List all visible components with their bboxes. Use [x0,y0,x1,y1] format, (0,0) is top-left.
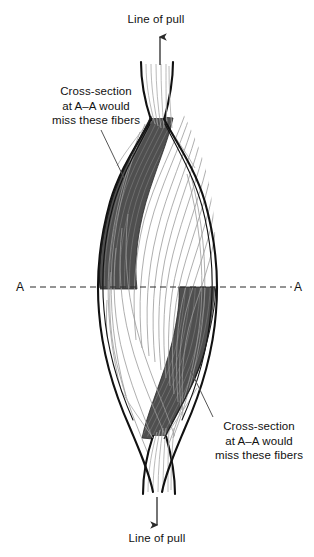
section-label-right: A [294,280,302,294]
line-of-pull-label-bottom: Line of pull [129,531,186,546]
line-of-pull-label-top: Line of pull [128,12,185,27]
callout-top: Cross-section at A–A would miss these fi… [52,84,140,128]
muscle-diagram-svg [0,0,314,557]
callout-bottom-line1: Cross-section [215,419,303,434]
callout-top-line2: at A–A would [52,99,140,114]
callout-top-line1: Cross-section [52,84,140,99]
callout-bottom-line2: at A–A would [215,434,303,449]
callout-bottom: Cross-section at A–A would miss these fi… [215,419,303,463]
callout-top-line3: miss these fibers [52,113,140,128]
section-label-left: A [16,280,24,294]
callout-bottom-line3: miss these fibers [215,448,303,463]
diagram-root: Line of pull Line of pull Cross-section … [0,0,314,557]
